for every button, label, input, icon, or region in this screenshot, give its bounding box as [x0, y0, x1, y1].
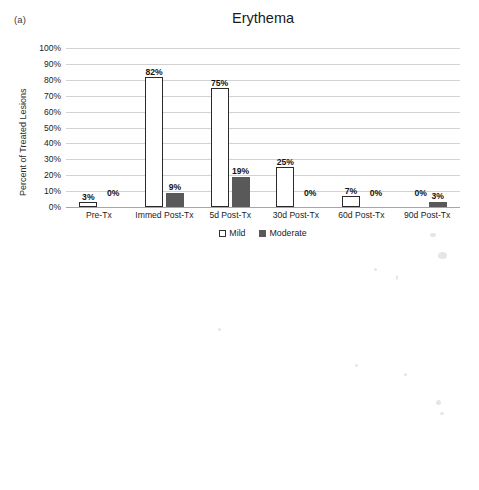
chart-legend-erythema: MildModerate [66, 228, 460, 238]
erythema-bar-mild[interactable]: 75% [211, 88, 229, 207]
erythema-category-group: 82%9%Immed Post-Tx [132, 48, 198, 207]
erythema-x-axis-line [66, 207, 460, 208]
erythema-category-group: 7%0%60d Post-Tx [329, 48, 395, 207]
erythema-y-tick-label: 100% [39, 43, 61, 53]
erythema-y-tick-label: 60% [44, 107, 61, 117]
erythema-bar-mild[interactable]: 3% [79, 202, 97, 207]
erythema-legend-label: Moderate [269, 228, 306, 238]
erythema-bar-value-label: 19% [232, 166, 249, 176]
erythema-legend-item-mild[interactable]: Mild [219, 228, 245, 238]
figure-root: { "figure": { "panels": [ { "tag": "(a)"… [0, 0, 479, 490]
erythema-y-tick-label: 10% [44, 186, 61, 196]
legend-swatch-moderate-icon [259, 230, 266, 237]
erythema-bar-mild[interactable]: 82% [145, 77, 163, 207]
erythema-bar-moderate[interactable]: 3% [429, 202, 447, 207]
erythema-bar-value-label: 9% [169, 182, 181, 192]
erythema-y-tick-label: 50% [44, 123, 61, 133]
plot-area-erythema: 0%10%20%30%40%50%60%70%80%90%100%3%0%Pre… [66, 48, 460, 207]
erythema-x-tick-label: Immed Post-Tx [132, 210, 198, 220]
erythema-category-group: 75%19%5d Post-Tx [197, 48, 263, 207]
erythema-y-tick-label: 20% [44, 170, 61, 180]
erythema-x-tick-label: 5d Post-Tx [197, 210, 263, 220]
erythema-bar-value-label: 0% [107, 188, 119, 198]
erythema-bar-mild[interactable]: 7% [342, 196, 360, 207]
erythema-y-tick-label: 80% [44, 75, 61, 85]
erythema-x-tick-label: 60d Post-Tx [329, 210, 395, 220]
erythema-category-group: 3%0%Pre-Tx [66, 48, 132, 207]
erythema-bar-value-label: 7% [345, 186, 357, 196]
erythema-x-tick-label: 90d Post-Tx [394, 210, 460, 220]
erythema-category-group: 25%0%30d Post-Tx [263, 48, 329, 207]
erythema-bar-value-label: 75% [211, 78, 228, 88]
erythema-legend-item-moderate[interactable]: Moderate [259, 228, 306, 238]
erythema-x-tick-label: 30d Post-Tx [263, 210, 329, 220]
erythema-bar-value-label: 25% [277, 157, 294, 167]
erythema-bar-value-label: 0% [414, 188, 426, 198]
erythema-y-tick-label: 90% [44, 59, 61, 69]
erythema-y-tick-label: 40% [44, 138, 61, 148]
erythema-bar-moderate[interactable]: 9% [166, 193, 184, 207]
erythema-bar-value-label: 3% [431, 191, 443, 201]
chart-panel-erythema: (a) Erythema Percent of Treated Lesions … [0, 0, 479, 245]
chart-panel-swelling: (b) Swelling Percent of Treated Lesions … [0, 245, 479, 490]
panel-tag-a: (a) [14, 14, 26, 25]
erythema-legend-label: Mild [229, 228, 245, 238]
erythema-category-group: 0%3%90d Post-Tx [394, 48, 460, 207]
erythema-bar-moderate[interactable]: 19% [232, 177, 250, 207]
erythema-bar-value-label: 3% [82, 192, 94, 202]
legend-swatch-mild-icon [219, 230, 226, 237]
erythema-bar-value-label: 0% [304, 188, 316, 198]
erythema-bar-value-label: 0% [370, 188, 382, 198]
chart-title-erythema: Erythema [66, 10, 460, 26]
erythema-bar-mild[interactable]: 25% [276, 167, 294, 207]
erythema-y-tick-label: 70% [44, 91, 61, 101]
y-axis-title-a: Percent of Treated Lesions [18, 88, 28, 196]
erythema-y-tick-label: 30% [44, 154, 61, 164]
erythema-x-tick-label: Pre-Tx [66, 210, 132, 220]
erythema-y-tick-label: 0% [49, 202, 61, 212]
erythema-bar-value-label: 82% [145, 67, 162, 77]
